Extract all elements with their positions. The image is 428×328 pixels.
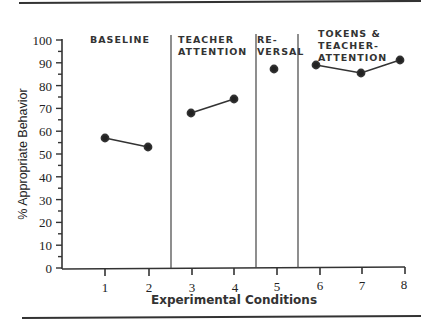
- bottom-rule: [22, 316, 421, 318]
- y-tick-label: 20: [39, 215, 52, 230]
- phase-label-tokens-line1: TOKENS &: [318, 28, 381, 39]
- chart-figure: 100 90 80 70 60 50 40 30 20 10 0 % Appro…: [0, 0, 428, 328]
- y-tick-label: 80: [39, 79, 52, 94]
- data-point: [101, 134, 108, 141]
- phase-label-tokens-line3: ATTENTION: [318, 52, 387, 63]
- y-tick-label: 60: [39, 124, 52, 139]
- top-rule: [19, 1, 421, 3]
- x-tick-label: 7: [359, 278, 366, 293]
- y-tick-label: 40: [39, 170, 52, 185]
- data-point: [230, 95, 237, 102]
- data-point: [144, 143, 151, 150]
- phase-label-reversal-line2: VERSAL: [257, 46, 304, 57]
- data-series: [101, 56, 403, 150]
- data-point: [270, 65, 277, 72]
- y-tick-label: 50: [39, 147, 52, 162]
- x-tick-label: 1: [102, 280, 109, 295]
- y-tick-label: 30: [39, 193, 52, 208]
- y-ticks: [56, 40, 62, 268]
- phase-label-baseline: BASELINE: [90, 34, 150, 45]
- y-axis-title: % Appropriate Behavior: [16, 88, 30, 219]
- phase-label-teacher-attention-line1: TEACHER: [178, 34, 234, 45]
- y-tick-label: 70: [39, 101, 52, 116]
- data-point: [396, 56, 403, 63]
- y-tick-label: 100: [33, 33, 53, 48]
- x-tick-label: 5: [274, 279, 281, 294]
- data-point: [357, 69, 364, 76]
- data-point: [187, 109, 194, 116]
- phase-label-tokens-line2: TEACHER-: [318, 40, 379, 51]
- y-tick-label: 10: [39, 238, 52, 253]
- phase-label-reversal-line1: RE-: [257, 34, 278, 45]
- x-axis-title: Experimental Conditions: [151, 293, 317, 307]
- y-tick-labels: 100 90 80 70 60 50 40 30 20 10 0: [33, 33, 53, 276]
- y-tick-label: 0: [46, 261, 53, 276]
- data-point: [312, 61, 319, 68]
- y-tick-label: 90: [39, 56, 52, 71]
- x-tick-label: 6: [317, 278, 324, 293]
- x-tick-label: 8: [401, 277, 408, 292]
- phase-dividers: [171, 34, 298, 268]
- phase-label-teacher-attention-line2: ATTENTION: [178, 46, 247, 57]
